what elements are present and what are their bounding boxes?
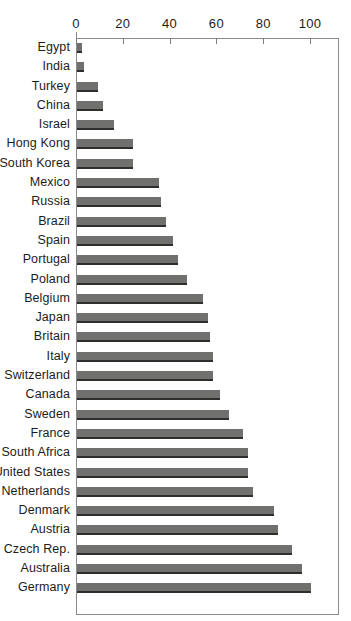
category-label: Netherlands (1, 484, 70, 498)
bar-row: Australia (0, 560, 351, 579)
bar-container (77, 429, 243, 441)
bar-container (77, 410, 229, 422)
category-label: Poland (30, 272, 70, 286)
bar (77, 448, 248, 458)
bar-row: France (0, 425, 351, 444)
bar-row: Brazil (0, 213, 351, 232)
bar-row: Britain (0, 328, 351, 347)
bar-container (77, 178, 159, 190)
category-label: Switzerland (4, 368, 70, 382)
bar (77, 352, 213, 362)
bar-row: Egypt (0, 39, 351, 58)
bar-container (77, 352, 213, 364)
bar-container (77, 82, 98, 94)
bar-row: Japan (0, 309, 351, 328)
category-label: Australia (20, 561, 70, 575)
bar-row: Italy (0, 348, 351, 367)
bar-row: Poland (0, 271, 351, 290)
x-axis-tick-label: 100 (299, 16, 322, 31)
category-label: Belgium (24, 291, 70, 305)
category-label: Denmark (19, 503, 70, 517)
bar-row: Russia (0, 193, 351, 212)
bar (77, 197, 161, 207)
bar (77, 101, 103, 111)
bar (77, 236, 173, 246)
category-label: Mexico (30, 175, 70, 189)
bar (77, 159, 133, 169)
bar (77, 583, 311, 593)
bar-row: Switzerland (0, 367, 351, 386)
bar-row: Hong Kong (0, 135, 351, 154)
bar (77, 468, 248, 478)
bar-row: Denmark (0, 502, 351, 521)
bar-container (77, 255, 178, 267)
bar-container (77, 294, 203, 306)
bar-container (77, 236, 173, 248)
bar (77, 255, 178, 265)
bar (77, 275, 187, 285)
bar (77, 429, 243, 439)
bar (77, 545, 292, 555)
bar-container (77, 313, 208, 325)
category-label: Portugal (23, 252, 70, 266)
category-label: Germany (18, 580, 70, 594)
category-label: Israel (39, 117, 70, 131)
category-label: Brazil (38, 214, 70, 228)
bar-chart: 020406080100 EgyptIndiaTurkeyChinaIsrael… (0, 0, 351, 621)
category-label: Austria (30, 522, 70, 536)
bar (77, 487, 253, 497)
category-label: France (30, 426, 70, 440)
bar-rows: EgyptIndiaTurkeyChinaIsraelHong KongSout… (0, 39, 351, 599)
bar-container (77, 275, 187, 287)
category-label: South Korea (0, 156, 70, 170)
bar-container (77, 43, 82, 55)
bar-row: Austria (0, 521, 351, 540)
bar-container (77, 217, 166, 229)
bar (77, 506, 274, 516)
x-axis-tick-label: 80 (256, 16, 271, 31)
bar-container (77, 448, 248, 460)
bar-container (77, 564, 302, 576)
bar (77, 525, 278, 535)
bar (77, 43, 82, 53)
bar-row: South Africa (0, 444, 351, 463)
bar-row: Netherlands (0, 483, 351, 502)
category-label: Italy (47, 349, 70, 363)
bar-row: Belgium (0, 290, 351, 309)
x-axis-tick-label: 40 (162, 16, 177, 31)
bar-container (77, 390, 220, 402)
bar (77, 564, 302, 574)
bar-row: Sweden (0, 406, 351, 425)
bar (77, 120, 114, 130)
bar-row: United States (0, 464, 351, 483)
bar-container (77, 101, 103, 113)
category-label: Turkey (32, 79, 70, 93)
bar (77, 371, 213, 381)
bar-row: Israel (0, 116, 351, 135)
category-label: Russia (31, 194, 70, 208)
bar-container (77, 487, 253, 499)
bar-container (77, 583, 311, 595)
x-axis-tick-label: 60 (209, 16, 224, 31)
bar (77, 294, 203, 304)
bar-row: Spain (0, 232, 351, 251)
category-label: South Africa (1, 445, 70, 459)
bar (77, 332, 210, 342)
x-axis-tick-label: 20 (115, 16, 130, 31)
bar (77, 410, 229, 420)
category-label: Sweden (24, 407, 70, 421)
bar-row: Turkey (0, 78, 351, 97)
category-label: Japan (35, 310, 70, 324)
bar-container (77, 525, 278, 537)
bar (77, 390, 220, 400)
bar-container (77, 545, 292, 557)
bar-container (77, 506, 274, 518)
category-label: Czech Rep. (4, 542, 70, 556)
bar (77, 313, 208, 323)
bar-container (77, 139, 133, 151)
bar-container (77, 197, 161, 209)
bar-row: Czech Rep. (0, 541, 351, 560)
category-label: Canada (26, 387, 70, 401)
category-label: Egypt (38, 40, 70, 54)
category-label: Spain (38, 233, 70, 247)
